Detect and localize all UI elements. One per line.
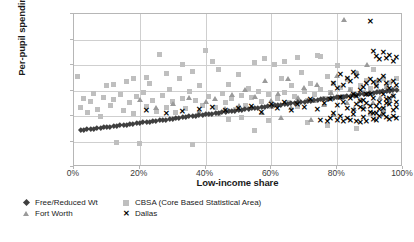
legend-label-free-reduced-wt: Free/Reduced Wt [35,198,98,207]
data-point-triangle [364,62,370,67]
data-point-square [187,89,192,94]
data-point-square [88,99,93,104]
legend-row-2: Fort Worth ✕ Dallas [20,208,320,219]
data-point-x: ✕ [336,71,344,79]
gridline-horizontal [74,65,401,66]
scatter-chart: Per-pupil spending $2,000$3,000$4,000$5,… [0,0,414,242]
data-point-square [226,82,231,87]
data-point-square [299,70,304,75]
data-point-x: ✕ [392,54,400,62]
data-point-triangle [212,96,218,101]
gridline-horizontal [74,40,401,41]
x-tick-mark [270,166,271,169]
legend-item-fort-worth[interactable]: Fort Worth [20,209,120,218]
x-tick-mark [336,166,337,169]
data-point-square [206,94,211,99]
data-point-triangle [137,97,143,102]
data-point-triangle [285,76,291,81]
data-point-square [167,87,172,92]
data-point-square [335,63,340,68]
data-point-square [157,52,162,57]
data-point-x: ✕ [356,119,364,127]
legend-label-fort-worth: Fort Worth [35,209,73,218]
data-point-triangle [170,101,176,106]
data-point-x: ✕ [179,108,187,116]
data-point-x: ✕ [221,107,229,115]
data-point-square [160,93,165,98]
data-point-x: ✕ [248,103,256,111]
data-point-square [127,100,132,105]
data-point-square [131,111,136,116]
x-marker-icon: ✕ [120,210,132,218]
data-point-square [325,74,330,79]
data-point-x: ✕ [300,104,308,112]
data-point-triangle [314,82,320,87]
data-point-x: ✕ [330,80,338,88]
data-point-square [256,89,261,94]
data-point-triangle [275,91,281,96]
data-point-triangle [341,17,347,22]
data-point-square [180,62,185,67]
data-point-square [272,62,277,67]
plot-area: ✕✕✕✕✕✕✕✕✕✕✕✕✕✕✕✕✕✕✕✕✕✕✕✕✕✕✕✕✕✕✕✕✕✕✕✕✕✕✕✕… [73,13,402,166]
data-point-square [295,55,300,60]
data-point-x: ✕ [208,104,216,112]
data-point-x: ✕ [389,113,397,121]
data-point-square [223,100,228,105]
data-point-square [95,107,100,112]
data-point-x: ✕ [360,106,368,114]
data-point-square [226,117,231,122]
data-point-square [177,76,182,81]
data-point-square [78,105,83,110]
data-point-x: ✕ [353,93,361,101]
data-point-square [190,69,195,74]
data-point-x: ✕ [366,18,374,26]
data-point-square [98,114,103,119]
data-point-square [262,56,267,61]
data-point-triangle [308,117,314,122]
data-point-x: ✕ [195,106,203,114]
data-point-square [137,141,142,146]
x-tick-mark [402,166,403,169]
data-point-square [190,142,195,147]
data-point-square [289,83,294,88]
data-point-square [108,103,113,108]
data-point-square [236,72,241,77]
x-tick-mark [139,166,140,169]
y-axis-title: Per-pupil spending [16,0,27,99]
data-point-square [216,67,221,72]
gridline-vertical [271,14,272,165]
data-point-square [318,87,323,92]
data-point-square [121,108,126,113]
triangle-marker-icon [20,211,32,216]
data-point-square [114,140,119,145]
data-point-square [308,81,313,86]
data-point-square [118,92,123,97]
legend-item-free-reduced-wt[interactable]: Free/Reduced Wt [20,198,120,207]
data-point-square [193,98,198,103]
x-tick-mark [205,166,206,169]
data-point-x: ✕ [369,110,377,118]
data-point-triangle [252,94,258,99]
data-point-square [252,60,257,65]
x-axis-title: Low-income share [73,177,402,188]
data-point-x: ✕ [327,115,335,123]
data-point-square [124,79,129,84]
data-point-square [111,82,116,87]
data-point-square [239,115,244,120]
data-point-x: ✕ [235,105,243,113]
legend-item-dallas[interactable]: ✕ Dallas [120,209,320,218]
legend-row-1: Free/Reduced Wt CBSA (Core Based Statist… [20,197,320,208]
legend-item-cbsa[interactable]: CBSA (Core Based Statistical Area) [120,198,320,207]
data-point-x: ✕ [386,95,394,103]
data-point-square [252,128,257,133]
data-point-square [279,76,284,81]
data-point-square [111,97,116,102]
data-point-square [239,93,244,98]
data-point-square [85,110,90,115]
gridline-horizontal [74,142,401,143]
square-marker-icon [120,200,132,206]
data-point-square [266,118,271,123]
data-point-x: ✕ [162,110,170,118]
data-point-square [147,81,152,86]
